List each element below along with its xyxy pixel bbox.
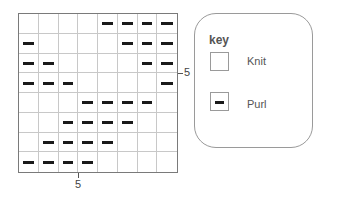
purl-cell bbox=[98, 113, 118, 133]
purl-cell bbox=[118, 34, 138, 54]
purl-cell bbox=[118, 93, 138, 113]
purl-cell bbox=[138, 93, 158, 113]
purl-cell bbox=[78, 152, 98, 172]
key-label-knit: Knit bbox=[247, 55, 266, 67]
right-axis-label: 5 bbox=[184, 66, 190, 78]
purl-cell bbox=[157, 54, 177, 74]
purl-cell bbox=[118, 14, 138, 34]
knitting-chart-grid bbox=[18, 13, 178, 173]
purl-cell bbox=[98, 14, 118, 34]
knit-cell bbox=[59, 93, 79, 113]
knit-cell bbox=[157, 113, 177, 133]
knit-cell bbox=[98, 54, 118, 74]
key-label-purl: Purl bbox=[247, 98, 267, 110]
purl-cell bbox=[59, 73, 79, 93]
purl-cell bbox=[19, 34, 39, 54]
knit-cell bbox=[118, 73, 138, 93]
knit-cell bbox=[98, 152, 118, 172]
knit-cell bbox=[19, 113, 39, 133]
knit-cell bbox=[157, 152, 177, 172]
knit-cell bbox=[78, 14, 98, 34]
purl-cell bbox=[157, 73, 177, 93]
purl-cell bbox=[118, 113, 138, 133]
purl-cell bbox=[39, 73, 59, 93]
knit-cell bbox=[19, 93, 39, 113]
purl-cell bbox=[39, 152, 59, 172]
knit-cell bbox=[138, 73, 158, 93]
knit-cell bbox=[39, 34, 59, 54]
knit-cell bbox=[157, 133, 177, 153]
knit-symbol-icon bbox=[210, 52, 229, 71]
knit-cell bbox=[157, 93, 177, 113]
knit-cell bbox=[78, 54, 98, 74]
purl-cell bbox=[98, 93, 118, 113]
knit-cell bbox=[59, 14, 79, 34]
purl-cell bbox=[157, 14, 177, 34]
purl-cell bbox=[138, 54, 158, 74]
knit-cell bbox=[39, 113, 59, 133]
purl-cell bbox=[78, 113, 98, 133]
purl-cell bbox=[138, 14, 158, 34]
knit-cell bbox=[59, 34, 79, 54]
key-legend: key Knit Purl bbox=[194, 13, 313, 148]
purl-cell bbox=[138, 34, 158, 54]
right-axis-tick bbox=[178, 73, 183, 74]
knit-cell bbox=[78, 73, 98, 93]
purl-cell bbox=[19, 54, 39, 74]
purl-cell bbox=[78, 93, 98, 113]
knit-cell bbox=[118, 152, 138, 172]
purl-cell bbox=[59, 133, 79, 153]
purl-cell bbox=[157, 34, 177, 54]
knit-cell bbox=[19, 133, 39, 153]
purl-cell bbox=[59, 152, 79, 172]
knit-cell bbox=[98, 73, 118, 93]
key-title: key bbox=[209, 33, 229, 47]
purl-cell bbox=[59, 113, 79, 133]
knit-cell bbox=[19, 14, 39, 34]
purl-symbol-icon bbox=[210, 92, 229, 111]
knit-cell bbox=[138, 113, 158, 133]
knit-cell bbox=[98, 34, 118, 54]
purl-cell bbox=[98, 133, 118, 153]
purl-cell bbox=[39, 54, 59, 74]
purl-cell bbox=[78, 133, 98, 153]
purl-cell bbox=[19, 152, 39, 172]
knit-cell bbox=[138, 152, 158, 172]
purl-cell bbox=[39, 133, 59, 153]
knit-cell bbox=[78, 34, 98, 54]
knit-cell bbox=[118, 133, 138, 153]
knit-cell bbox=[39, 93, 59, 113]
bottom-axis-label: 5 bbox=[73, 178, 83, 190]
purl-cell bbox=[19, 73, 39, 93]
knit-cell bbox=[59, 54, 79, 74]
knit-cell bbox=[138, 133, 158, 153]
knit-cell bbox=[118, 54, 138, 74]
knit-cell bbox=[39, 14, 59, 34]
